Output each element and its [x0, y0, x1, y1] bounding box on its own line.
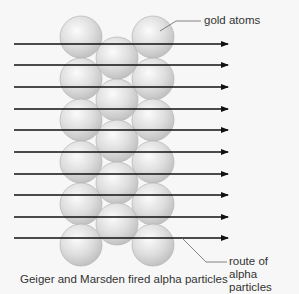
gold-atom	[132, 141, 174, 183]
gold-atom	[132, 224, 174, 266]
gold-atom	[60, 183, 102, 225]
route-leader-line	[182, 238, 227, 262]
gold-atom	[60, 16, 102, 58]
gold-atom	[96, 162, 138, 204]
gold-atom	[96, 120, 138, 162]
gold-atom	[96, 203, 138, 245]
gold-atom	[132, 183, 174, 225]
gold-atom	[60, 224, 102, 266]
route-of-alpha-particles-label: route of alpha particles	[229, 255, 299, 294]
gold-atom	[132, 99, 174, 141]
gold-atom	[132, 16, 174, 58]
diagram-caption: Geiger and Marsden fired alpha particles	[20, 273, 228, 286]
gold-atoms-lattice	[60, 16, 174, 266]
gold-atom	[60, 58, 102, 100]
gold-atom	[96, 37, 138, 79]
gold-atom	[60, 141, 102, 183]
label-leader-lines	[160, 21, 227, 262]
gold-atom	[60, 99, 102, 141]
gold-atoms-label: gold atoms	[204, 14, 260, 27]
gold-atom	[132, 58, 174, 100]
gold-atom	[96, 79, 138, 121]
